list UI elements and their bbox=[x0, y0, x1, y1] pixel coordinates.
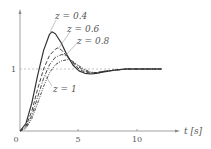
x-axis-label: t [s] bbox=[184, 126, 203, 136]
x-tick-label-0: 0 bbox=[13, 135, 18, 144]
label-z04: z = 0.4 bbox=[54, 11, 88, 21]
step-response-chart: z = 0.4 z = 0.6 z = 0.8 z = 1 1 0 5 10 t… bbox=[0, 0, 211, 149]
label-z08: z = 0.8 bbox=[76, 36, 110, 46]
leader-z04 bbox=[50, 20, 56, 32]
y-tick-label-1: 1 bbox=[11, 65, 16, 74]
curve-z1 bbox=[20, 60, 162, 131]
x-tick-label-5: 5 bbox=[75, 135, 80, 144]
curve-z04 bbox=[20, 32, 162, 131]
x-tick-label-10: 10 bbox=[132, 135, 142, 144]
y-axis-arrow-icon bbox=[19, 9, 22, 14]
x-axis-arrow-icon bbox=[175, 130, 180, 133]
label-z06: z = 0.6 bbox=[66, 24, 100, 34]
curves bbox=[20, 32, 162, 131]
label-z1: z = 1 bbox=[52, 84, 77, 94]
